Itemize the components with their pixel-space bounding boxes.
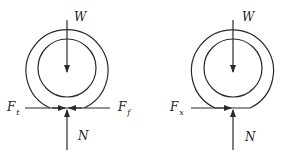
left-weight-label: W xyxy=(74,10,88,24)
right-wheel-diagram: W N Fx xyxy=(169,10,273,150)
left-traction-label: Ft xyxy=(6,100,20,117)
left-wheel-diagram: W N Ft Ff xyxy=(6,10,132,150)
right-force-x-label: Fx xyxy=(169,100,184,117)
diagram-canvas: W N Ft Ff W N Fx xyxy=(0,0,285,161)
left-normal-label: N xyxy=(77,129,89,143)
left-friction-label: Ff xyxy=(117,100,132,117)
right-normal-label: N xyxy=(244,130,256,144)
right-weight-label: W xyxy=(242,10,256,24)
